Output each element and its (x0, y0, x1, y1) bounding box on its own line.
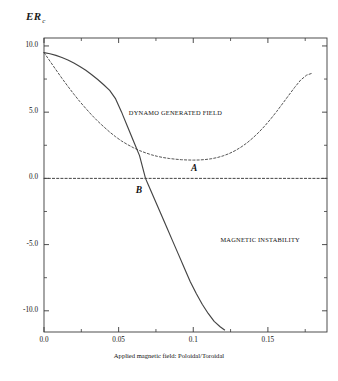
x-tick-label: 0.1 (173, 336, 213, 344)
chart-figure: ERc 0.00.050.10.1510.05.00.0-5.0-10.0 DY… (0, 0, 338, 381)
plot-frame (44, 38, 327, 332)
series-b (44, 53, 225, 330)
x-tick-label: 0.15 (248, 336, 288, 344)
plot-area (0, 0, 338, 381)
x-tick-label: 0.0 (24, 336, 64, 344)
curve-label-b: B (136, 185, 142, 195)
y-tick-label: -10.0 (8, 306, 38, 314)
region-label: DYNAMO GENERATED FIELD (129, 109, 222, 116)
x-axis-title: Applied magnetic field: Poloidal/Toroida… (0, 352, 338, 359)
region-label: MAGNETIC INSTABILITY (220, 236, 300, 243)
y-tick-label: 10.0 (8, 41, 38, 49)
x-tick-label: 0.05 (99, 336, 139, 344)
y-tick-label: 5.0 (8, 107, 38, 115)
curve-label-a: A (191, 163, 197, 173)
y-tick-label: -5.0 (8, 240, 38, 248)
y-tick-label: 0.0 (8, 173, 38, 181)
